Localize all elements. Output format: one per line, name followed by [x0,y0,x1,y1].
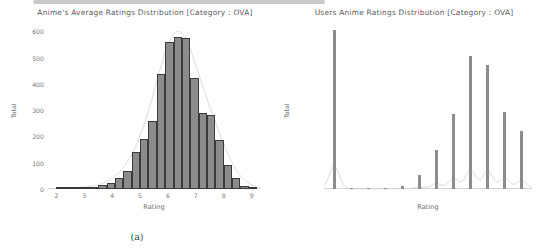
histogram-bar [224,165,232,189]
histogram-bar [174,37,182,189]
ytick-label: 300 [10,107,44,114]
chart-b-title: Users Anime Ratings Distribution [Catego… [275,8,549,17]
chart-b-plot-area [324,26,532,189]
count-bar [333,30,336,189]
histogram-bar [65,187,73,189]
histogram-bar [249,187,257,189]
xtick-label: 2 [54,192,58,199]
ytick-label: 0 [10,186,44,193]
count-bar [418,175,421,189]
histogram-bar [56,187,64,189]
histogram-bar [98,185,106,189]
xtick-label: 6 [166,192,170,199]
histogram-bar [132,152,140,189]
count-bar [486,65,489,189]
chart-a-xlabel: Rating [48,203,260,211]
ytick-label: 400 [10,80,44,87]
figure-a-caption: (a) [0,231,274,242]
histogram-bar [123,171,131,189]
chart-a-plot-area [48,26,260,189]
count-bar [503,112,506,189]
histogram-bar [215,140,223,189]
histogram-bar [232,178,240,189]
histogram-bar [107,183,115,189]
figure-page: Anime's Average Ratings Distribution [Ca… [0,0,549,252]
figure-a: Anime's Average Ratings Distribution [Ca… [0,0,274,252]
histogram-bar [182,38,190,189]
ytick-label: 200 [10,133,44,140]
ytick-label: 600 [10,28,44,35]
count-bar [401,186,404,189]
chart-b-axis-line [324,188,532,189]
histogram-bar [165,42,173,189]
xtick-label: 8 [222,192,226,199]
count-bar [452,114,455,189]
chart-b-ylabel: Total [283,104,290,118]
chart-b-xlabel: Rating [324,203,532,211]
histogram-bar [199,113,207,189]
histogram-bar [81,187,89,189]
count-bar [469,56,472,189]
histogram-bar [190,78,198,189]
histogram-bar [73,187,81,189]
figure-b: Users Anime Ratings Distribution [Catego… [275,0,549,252]
histogram-bar [90,187,98,189]
xtick-label: 7 [194,192,198,199]
histogram-bar [207,115,215,189]
xtick-label: 3 [82,192,86,199]
ytick-label: 100 [10,159,44,166]
chart-a-title: Anime's Average Ratings Distribution [Ca… [0,8,282,17]
xtick-label: 9 [250,192,254,199]
chart-b-kde-curve [324,26,532,189]
ytick-label: 500 [10,54,44,61]
histogram-bar [157,74,165,189]
histogram-bar [115,178,123,189]
count-bar [435,150,438,189]
histogram-bar [140,139,148,189]
histogram-bar [240,186,248,189]
kde-path [324,166,532,189]
count-bar [520,131,523,189]
count-bar [350,188,353,189]
count-bar [367,188,370,189]
xtick-label: 5 [138,192,142,199]
histogram-bar [148,121,156,189]
count-bar [384,188,387,189]
xtick-label: 4 [110,192,114,199]
